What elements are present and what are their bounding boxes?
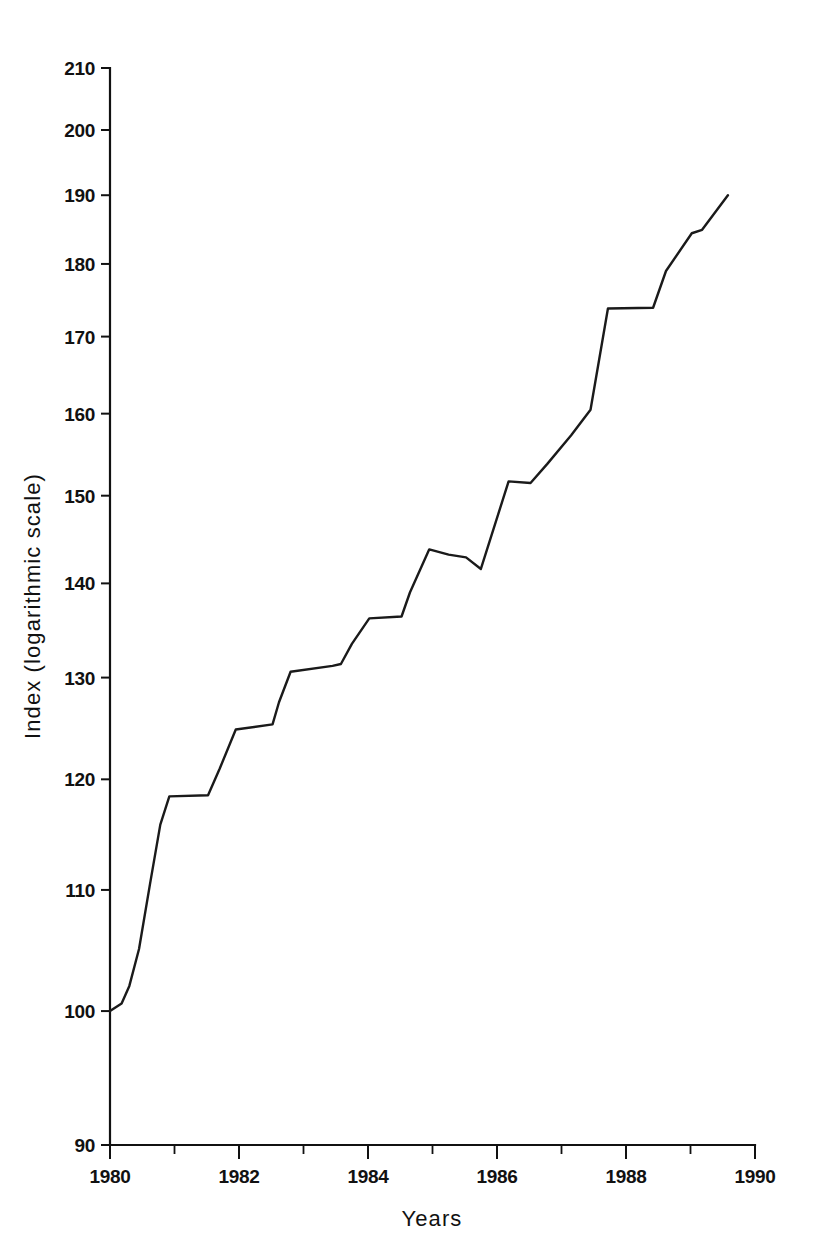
line-chart: 90100110120130140150160170180190200210 1… bbox=[0, 0, 817, 1256]
y-tick-label: 190 bbox=[64, 185, 95, 206]
x-tick-label: 1990 bbox=[734, 1166, 775, 1187]
y-tick-label: 130 bbox=[64, 668, 95, 689]
x-tick-label: 1982 bbox=[218, 1166, 259, 1187]
y-tick-label: 170 bbox=[64, 327, 95, 348]
y-tick-label: 90 bbox=[74, 1135, 95, 1156]
chart-figure: 90100110120130140150160170180190200210 1… bbox=[0, 0, 817, 1256]
x-tick-label: 1986 bbox=[476, 1166, 517, 1187]
y-tick-label: 110 bbox=[65, 880, 95, 901]
y-tick-label: 150 bbox=[64, 486, 95, 507]
y-tick-label: 140 bbox=[64, 573, 95, 594]
x-tick-label: 1988 bbox=[605, 1166, 646, 1187]
y-axis-ticks: 90100110120130140150160170180190200210 bbox=[64, 58, 110, 1156]
y-tick-label: 160 bbox=[64, 404, 95, 425]
y-axis-title: Index (logarithmic scale) bbox=[20, 473, 45, 739]
x-tick-label: 1984 bbox=[347, 1166, 389, 1187]
y-tick-label: 120 bbox=[64, 769, 95, 790]
x-axis-ticks: 198019821984198619881990 bbox=[89, 1145, 775, 1187]
data-series-line bbox=[110, 195, 728, 1011]
y-tick-label: 210 bbox=[64, 58, 95, 79]
y-tick-label: 200 bbox=[64, 120, 95, 141]
x-tick-label: 1980 bbox=[89, 1166, 130, 1187]
y-tick-label: 180 bbox=[64, 254, 95, 275]
y-tick-label: 100 bbox=[64, 1001, 95, 1022]
x-axis-title: Years bbox=[402, 1206, 463, 1231]
